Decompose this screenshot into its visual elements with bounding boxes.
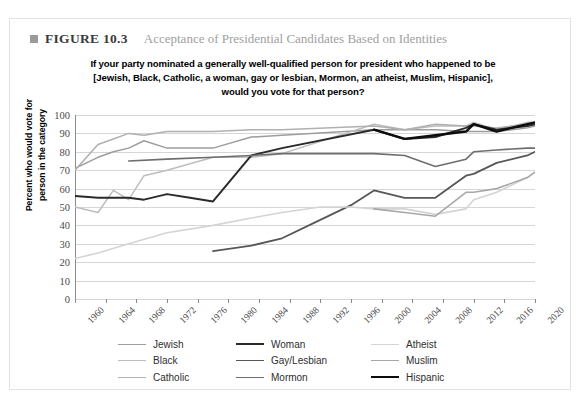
- x-axis-tick-mark: [136, 299, 137, 303]
- legend-swatch-gay-lesbian: [236, 360, 264, 361]
- legend-swatch-muslim: [371, 360, 399, 361]
- x-axis-tick-mark: [443, 299, 444, 303]
- legend-swatch-atheist: [371, 344, 399, 345]
- x-axis-tick-mark: [504, 299, 505, 303]
- y-axis-tick-label: 0: [65, 294, 70, 305]
- y-axis-tick-label: 60: [60, 183, 71, 194]
- chart-title-line-3: would you vote for that person?: [48, 85, 538, 99]
- y-axis-tick-label: 90: [60, 128, 71, 139]
- y-axis-title-line-2: person in the category: [36, 67, 49, 243]
- x-axis-tick-mark: [382, 299, 383, 303]
- x-axis-tick-mark: [106, 299, 107, 303]
- legend-item-catholic[interactable]: Catholic: [118, 372, 236, 383]
- y-axis-tick-label: 100: [54, 110, 70, 121]
- x-axis-tick-mark: [412, 299, 413, 303]
- series-line-atheist: [75, 172, 535, 258]
- y-axis-tick-label: 80: [60, 146, 71, 157]
- legend-label-woman: Woman: [271, 339, 305, 350]
- y-axis-tick-label: 20: [60, 257, 71, 268]
- gridline: [75, 299, 535, 300]
- y-axis-tick-label: 30: [60, 238, 71, 249]
- chart-title-line-1: If your party nominated a generally well…: [48, 57, 538, 71]
- y-axis-tick-label: 70: [60, 165, 71, 176]
- figure-caption: Acceptance of Presidential Candidates Ba…: [144, 31, 447, 47]
- y-axis-title: Percent who would vote for person in the…: [23, 67, 57, 243]
- x-axis-tick-mark: [535, 299, 536, 303]
- legend-label-hispanic: Hispanic: [406, 372, 444, 383]
- legend-item-muslim[interactable]: Muslim: [371, 355, 491, 366]
- legend-item-woman[interactable]: Woman: [236, 339, 371, 350]
- legend-item-mormon[interactable]: Mormon: [236, 372, 371, 383]
- x-axis-tick-mark: [75, 299, 76, 303]
- y-axis-tick-label: 50: [60, 202, 71, 213]
- legend-item-jewish[interactable]: Jewish: [118, 339, 236, 350]
- legend-item-hispanic[interactable]: Hispanic: [371, 372, 491, 383]
- legend-label-muslim: Muslim: [406, 355, 438, 366]
- legend-item-black[interactable]: Black: [118, 355, 236, 366]
- legend-label-mormon: Mormon: [271, 372, 308, 383]
- legend-swatch-mormon: [236, 377, 264, 378]
- x-axis-tick-mark: [198, 299, 199, 303]
- x-axis-tick-mark: [351, 299, 352, 303]
- legend-swatch-black: [118, 360, 146, 361]
- legend-label-atheist: Atheist: [406, 339, 437, 350]
- series-line-gay-lesbian: [213, 152, 535, 251]
- legend-label-black: Black: [153, 355, 177, 366]
- figure-header: FIGURE 10.3 Acceptance of Presidential C…: [30, 30, 550, 48]
- x-axis-tick-mark: [167, 299, 168, 303]
- chart-legend: JewishWomanAtheistBlackGay/LesbianMuslim…: [118, 336, 518, 386]
- x-axis-tick-mark: [320, 299, 321, 303]
- legend-swatch-woman: [236, 343, 264, 345]
- legend-item-atheist[interactable]: Atheist: [371, 339, 491, 350]
- legend-item-gay-lesbian[interactable]: Gay/Lesbian: [236, 355, 371, 366]
- legend-label-catholic: Catholic: [153, 372, 189, 383]
- legend-swatch-hispanic: [371, 376, 399, 378]
- figure-container: FIGURE 10.3 Acceptance of Presidential C…: [0, 0, 583, 397]
- y-axis-title-line-1: Percent who would vote for: [23, 67, 36, 243]
- y-axis-tick-label: 10: [60, 275, 71, 286]
- plot-area: Percent who would vote for person in the…: [75, 115, 535, 299]
- x-axis-tick-mark: [228, 299, 229, 303]
- x-axis-tick-mark: [290, 299, 291, 303]
- legend-swatch-catholic: [118, 377, 146, 378]
- x-axis-tick-mark: [259, 299, 260, 303]
- legend-label-jewish: Jewish: [153, 339, 184, 350]
- chart-title-line-2: [Jewish, Black, Catholic, a woman, gay o…: [48, 71, 538, 85]
- series-lines: [75, 115, 535, 299]
- square-bullet-icon: [30, 35, 38, 43]
- y-axis-tick-label: 40: [60, 220, 71, 231]
- chart-title: If your party nominated a generally well…: [48, 57, 538, 100]
- figure-number-label: FIGURE 10.3: [45, 31, 128, 47]
- legend-label-gay-lesbian: Gay/Lesbian: [271, 355, 327, 366]
- x-axis-tick-mark: [474, 299, 475, 303]
- legend-swatch-jewish: [118, 344, 146, 345]
